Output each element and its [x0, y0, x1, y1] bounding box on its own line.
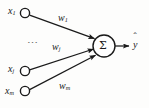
weight-label-wj: wj	[52, 42, 60, 53]
output-label-yhat: y	[133, 40, 137, 50]
input-subscript-xm: m	[9, 89, 13, 96]
input-ellipsis: ⋯	[27, 38, 39, 49]
weight-base-wm: w	[59, 80, 66, 91]
weight-subscript-wj: j	[59, 45, 61, 52]
input-label-xm: xm	[5, 86, 14, 97]
input-subscript-xj: j	[12, 67, 14, 74]
neuron-diagram-canvas: x1 xj xm ⋯ w1 wj wm Σ y	[0, 0, 149, 108]
edge-xj-to-sigma	[30, 49, 94, 70]
input-subscript-x1: 1	[12, 9, 15, 16]
input-node-xj	[20, 66, 29, 75]
weight-label-w1: w1	[58, 13, 68, 24]
input-label-xj: xj	[8, 64, 14, 75]
input-node-x1	[20, 8, 29, 17]
weight-subscript-w1: 1	[65, 16, 68, 23]
weight-base-wj: w	[52, 41, 59, 52]
weight-base-w1: w	[58, 12, 65, 23]
input-label-x1: x1	[8, 6, 16, 17]
weight-label-wm: wm	[59, 81, 70, 92]
diagram-vector-layer	[0, 0, 149, 108]
output-base-y: y	[133, 39, 137, 50]
input-node-xm	[20, 86, 29, 95]
weight-subscript-wm: m	[66, 84, 70, 91]
summation-symbol: Σ	[99, 40, 107, 51]
